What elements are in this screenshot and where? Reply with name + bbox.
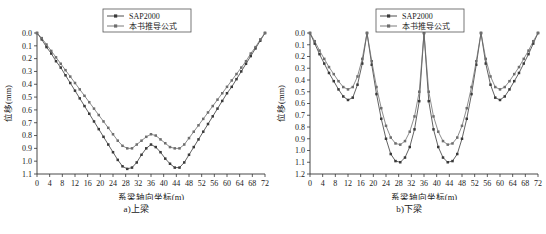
series-marker [489, 83, 492, 86]
series-marker [183, 143, 186, 146]
y-tick-label: 0.6 [295, 99, 305, 108]
series-marker [489, 75, 492, 78]
series-line-2 [37, 33, 265, 148]
series-marker [437, 130, 440, 133]
y-tick-label: 0.7 [295, 111, 305, 120]
series-marker [216, 107, 219, 110]
series-marker [342, 86, 345, 89]
x-tick-label: 28 [122, 179, 130, 188]
y-tick-label: 1.0 [295, 146, 305, 155]
series-marker [188, 137, 191, 140]
series-marker [102, 136, 105, 139]
series-marker [98, 114, 101, 117]
series-marker [447, 143, 450, 146]
series-marker [88, 113, 91, 116]
x-axis-title: 系梁轴向坐标(m) [118, 192, 184, 200]
series-marker [470, 86, 473, 89]
y-tick-label: 1.2 [295, 170, 305, 179]
series-marker [385, 138, 388, 141]
series-marker [112, 133, 115, 136]
series-marker [102, 120, 105, 123]
series-marker [385, 125, 388, 128]
series-marker [404, 140, 407, 143]
x-tick-label: 60 [496, 179, 504, 188]
series-marker [413, 128, 416, 131]
y-tick-label: 0.7 [22, 119, 32, 128]
series-marker [499, 99, 502, 102]
series-marker [150, 143, 153, 146]
series-marker [121, 165, 124, 168]
chart-panel-b: 0.00.10.20.30.40.50.60.70.80.91.01.11.20… [273, 0, 546, 234]
x-tick-label: 40 [160, 179, 168, 188]
series-marker [475, 60, 478, 63]
x-tick-label: 36 [420, 179, 428, 188]
series-marker [93, 120, 96, 123]
series-marker [352, 86, 355, 89]
series-marker [69, 75, 72, 78]
x-tick-label: 52 [198, 179, 206, 188]
x-tick-label: 20 [96, 179, 104, 188]
plot-area-b: 0.00.10.20.30.40.50.60.70.80.91.01.11.20… [273, 0, 546, 200]
series-marker [342, 95, 345, 98]
series-marker [55, 56, 58, 59]
series-marker [390, 136, 393, 139]
x-tick-label: 12 [344, 179, 352, 188]
series-marker [136, 161, 139, 164]
x-tick-label: 0 [35, 179, 39, 188]
y-tick-label: 0.3 [295, 64, 305, 73]
series-marker [183, 161, 186, 164]
series-marker [164, 142, 167, 145]
x-tick-label: 0 [308, 179, 312, 188]
series-marker [145, 147, 148, 150]
series-marker [409, 146, 412, 149]
series-marker [131, 166, 134, 169]
series-marker [361, 58, 364, 61]
series-marker [169, 146, 172, 149]
series-marker [375, 93, 378, 96]
series-marker [328, 72, 331, 75]
series-marker [328, 66, 331, 69]
series-marker [64, 69, 67, 72]
series-marker [333, 80, 336, 83]
y-tick-label: 0.5 [295, 88, 305, 97]
series-marker [226, 86, 229, 89]
series-marker [159, 138, 162, 141]
series-marker [356, 75, 359, 78]
y-axis-title: 位移(mm) [276, 85, 286, 122]
x-tick-label: 8 [333, 179, 337, 188]
series-marker [250, 52, 253, 55]
series-marker [207, 111, 210, 114]
series-marker [121, 145, 124, 148]
series-marker [93, 107, 96, 110]
legend-label: SAP2000 [129, 12, 160, 21]
x-tick-label: 16 [84, 179, 92, 188]
line-chart-a: 0.00.10.20.30.40.50.60.70.80.91.01.10481… [0, 0, 273, 200]
series-marker [432, 128, 435, 131]
series-marker [126, 168, 129, 171]
series-marker [136, 143, 139, 146]
series-marker [461, 125, 464, 128]
series-marker [494, 96, 497, 99]
series-marker [480, 32, 483, 35]
y-tick-label: 0.8 [295, 123, 305, 132]
series-marker [178, 147, 181, 150]
x-tick-label: 64 [236, 179, 244, 188]
series-marker [394, 160, 397, 163]
series-marker [221, 100, 224, 103]
series-marker [155, 146, 158, 149]
series-marker [231, 86, 234, 89]
series-marker [314, 40, 317, 43]
y-tick-label: 0.9 [22, 144, 32, 153]
series-marker [418, 100, 421, 103]
series-marker [404, 156, 407, 159]
series-marker [513, 73, 516, 76]
series-marker [164, 157, 167, 160]
x-tick-label: 24 [109, 179, 117, 188]
series-marker [231, 79, 234, 82]
series-marker [513, 80, 516, 83]
legend-label: 本书推导公式 [129, 21, 177, 31]
y-tick-label: 1.1 [295, 158, 305, 167]
series-marker [399, 161, 402, 164]
series-marker [117, 139, 120, 142]
series-marker [537, 32, 540, 35]
